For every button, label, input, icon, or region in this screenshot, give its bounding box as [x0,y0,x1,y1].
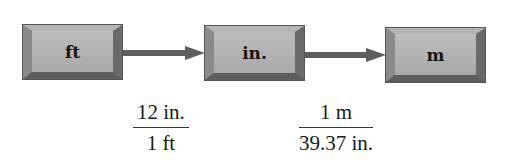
arrow-in-to-m [305,48,386,62]
box-m: m [385,27,486,83]
box-label-ft: ft [32,31,113,72]
box-label-in: in. [214,32,295,73]
conversion-factor-in-to-m: 1 m 39.37 in. [299,100,373,155]
arrow-ft-to-in [123,46,205,60]
box-label-m: m [395,34,476,75]
arrow-shaft [123,50,187,56]
conversion-factor-ft-to-in: 12 in. 1 ft [133,100,189,155]
fraction-bar [133,127,189,128]
fraction-numerator: 1 m [316,100,356,124]
box-ft: ft [22,24,123,80]
fraction-bar [299,127,373,128]
arrow-head-icon [366,48,386,62]
box-in: in. [204,25,305,81]
arrow-head-icon [185,46,205,60]
fraction-numerator: 12 in. [133,100,189,124]
fraction-denominator: 39.37 in. [299,131,373,155]
fraction-denominator: 1 ft [147,131,176,155]
arrow-shaft [305,52,368,58]
